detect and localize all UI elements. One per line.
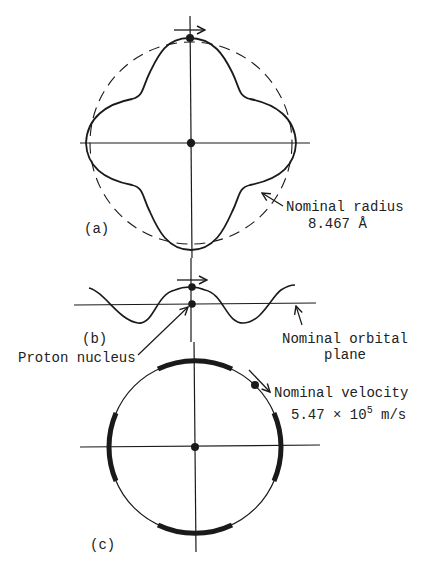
panel-a-label: (a) [84,221,109,237]
panel-b-figure [74,258,316,355]
orbital-diagram [0,0,426,572]
nominal-radius-label: Nominal radius [286,199,404,215]
nucleus-dot [188,300,196,308]
nominal-radius-value: 8.467 Å [308,216,367,232]
nucleus-dot [191,443,199,451]
orbital-plane-label: Nominal orbital [282,331,408,347]
panel-a-figure [80,16,310,258]
panel-c-figure [80,342,320,552]
nucleus-pointer-arrow-icon [138,307,188,355]
pointer-arrow-icon [262,193,283,206]
velocity-unit: m/s [373,407,407,423]
horizontal-axis [80,445,320,447]
nominal-velocity-label: Nominal velocity [274,385,408,401]
nominal-velocity-value: 5.47 × 105 m/s [291,403,406,423]
electron-dot [186,34,194,42]
proton-nucleus-label: Proton nucleus [18,350,136,366]
vertical-axis [190,16,192,258]
panel-b-label: (b) [82,331,107,347]
velocity-mantissa: 5.47 × 10 [291,407,367,423]
electron-dot [188,283,196,291]
plane-pointer-arrow-icon [296,306,302,325]
nucleus-dot [187,139,195,147]
electron-dot [251,381,259,389]
velocity-arrow-icon [249,370,270,392]
orbital-plane-label-line2: plane [324,347,366,363]
panel-c-label: (c) [90,537,115,553]
